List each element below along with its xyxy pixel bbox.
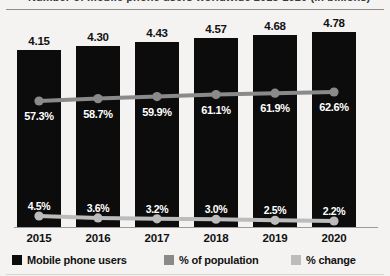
x-axis-label-2016: 2016 [70, 232, 126, 244]
x-axis-label-2018: 2018 [188, 232, 244, 244]
chart-legend: Mobile phone users % of population % cha… [0, 252, 390, 270]
change-marker-2017[interactable] [152, 214, 161, 223]
legend-divider [6, 274, 384, 275]
bar-value-label-2017: 4.43 [129, 27, 185, 39]
x-axis-label-2015: 2015 [11, 232, 67, 244]
population-value-label-2015: 57.3% [11, 110, 67, 122]
bar-value-label-2016: 4.30 [70, 31, 126, 43]
legend-item-1[interactable]: % of population [164, 254, 258, 266]
change-marker-2018[interactable] [211, 215, 220, 224]
change-value-label-2016: 3.6% [70, 202, 126, 214]
legend-swatch-icon-1 [164, 255, 174, 265]
population-value-label-2019: 61.9% [247, 102, 303, 114]
legend-label-1: % of population [179, 254, 258, 266]
change-value-label-2017: 3.2% [129, 203, 185, 215]
change-value-label-2015: 4.5% [11, 200, 67, 212]
population-marker-2020[interactable] [329, 87, 338, 96]
population-marker-2018[interactable] [211, 90, 220, 99]
population-marker-2019[interactable] [270, 89, 279, 98]
change-marker-2020[interactable] [329, 216, 338, 225]
population-value-label-2017: 59.9% [129, 106, 185, 118]
x-axis-label-2020: 2020 [306, 232, 362, 244]
x-axis-label-2017: 2017 [129, 232, 185, 244]
change-marker-2019[interactable] [270, 216, 279, 225]
percent-of-population-line [39, 92, 334, 101]
population-value-label-2020: 62.6% [306, 101, 362, 113]
population-value-label-2018: 61.1% [188, 104, 244, 116]
legend-item-0[interactable]: Mobile phone users [12, 254, 127, 266]
legend-label-0: Mobile phone users [27, 254, 127, 266]
x-axis-label-2019: 2019 [247, 232, 303, 244]
percent-change-line [39, 216, 334, 221]
population-marker-2017[interactable] [152, 92, 161, 101]
bar-value-label-2015: 4.15 [11, 35, 67, 47]
bar-value-label-2019: 4.68 [247, 20, 303, 32]
population-value-label-2016: 58.7% [70, 108, 126, 120]
change-marker-2015[interactable] [34, 211, 43, 220]
bar-value-label-2020: 4.78 [306, 17, 362, 29]
change-value-label-2020: 2.2% [306, 205, 362, 217]
change-value-label-2018: 3.0% [188, 203, 244, 215]
population-marker-2016[interactable] [93, 94, 102, 103]
legend-swatch-icon-2 [291, 255, 301, 265]
change-marker-2016[interactable] [93, 213, 102, 222]
legend-label-2: % change [306, 254, 356, 266]
change-value-label-2019: 2.5% [247, 204, 303, 216]
population-marker-2015[interactable] [34, 96, 43, 105]
chart-root: Number of mobile phone users worldwide 2… [0, 0, 390, 276]
bar-value-label-2018: 4.57 [188, 23, 244, 35]
legend-swatch-icon-0 [12, 255, 22, 265]
legend-item-2[interactable]: % change [291, 254, 356, 266]
